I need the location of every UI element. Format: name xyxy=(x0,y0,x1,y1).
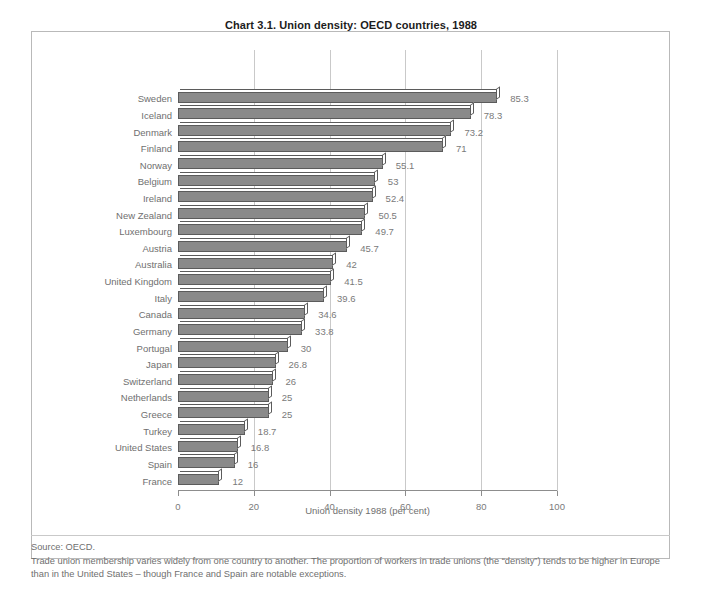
bar-end-cap xyxy=(218,474,223,485)
bar-body xyxy=(178,441,238,452)
category-label: Denmark xyxy=(133,126,172,137)
bar-value-label: 49.7 xyxy=(375,226,394,237)
bar xyxy=(178,141,447,152)
bar-body xyxy=(178,241,347,252)
footer: Source: OECD. Trade union membership var… xyxy=(31,541,670,580)
bar-row: Iceland78.3 xyxy=(178,107,557,124)
bar-end-cap xyxy=(450,125,455,136)
bar-value-label: 78.3 xyxy=(484,109,503,120)
bar-body xyxy=(178,474,219,485)
category-label: Austria xyxy=(142,242,172,253)
bar-value-label: 73.2 xyxy=(464,126,483,137)
bar-body xyxy=(178,108,471,119)
bar-value-label: 39.6 xyxy=(337,292,356,303)
bar-body xyxy=(178,141,443,152)
bar xyxy=(178,191,377,202)
bar-body xyxy=(178,374,273,385)
bar-body xyxy=(178,274,331,285)
bar xyxy=(178,441,242,452)
category-label: Iceland xyxy=(141,109,172,120)
bar-end-cap xyxy=(382,158,387,169)
bar-row: Japan26.8 xyxy=(178,356,557,373)
bar xyxy=(178,274,335,285)
bar-end-cap xyxy=(244,424,249,435)
bar-value-label: 26 xyxy=(286,375,297,386)
category-label: Greece xyxy=(141,409,172,420)
bar xyxy=(178,125,455,136)
bar-body xyxy=(178,175,375,186)
bar-row: Belgium53 xyxy=(178,173,557,190)
bar-end-cap xyxy=(234,457,239,468)
bar-row: Finland71 xyxy=(178,140,557,157)
x-tick-100 xyxy=(557,491,558,496)
bar-row: Canada34.6 xyxy=(178,306,557,323)
bar-end-cap xyxy=(496,92,501,103)
category-label: Turkey xyxy=(143,425,172,436)
bar-row: Turkey18.7 xyxy=(178,422,557,439)
x-tick-20 xyxy=(254,491,255,496)
category-label: Canada xyxy=(139,309,172,320)
bar xyxy=(178,92,501,103)
bar-value-label: 16 xyxy=(248,458,259,469)
bar-end-cap xyxy=(470,108,475,119)
bar-end-cap xyxy=(237,441,242,452)
bar xyxy=(178,341,292,352)
gridline-100 xyxy=(557,50,558,491)
bar xyxy=(178,474,223,485)
bar xyxy=(178,224,366,235)
bar-value-label: 25 xyxy=(282,409,293,420)
bar xyxy=(178,175,379,186)
bar-end-cap xyxy=(332,258,337,269)
x-tick-40 xyxy=(330,491,331,496)
x-axis-title: Union density 1988 (per cent) xyxy=(178,505,557,516)
bar-value-label: 41.5 xyxy=(344,276,363,287)
bar-value-label: 25 xyxy=(282,392,293,403)
bar-end-cap xyxy=(442,141,447,152)
bar-value-label: 26.8 xyxy=(289,359,308,370)
bar-value-label: 12 xyxy=(232,475,243,486)
bar-value-label: 33.8 xyxy=(315,325,334,336)
bar-value-label: 85.3 xyxy=(510,93,529,104)
bar-value-label: 71 xyxy=(456,143,467,154)
bar-end-cap xyxy=(287,341,292,352)
category-label: Ireland xyxy=(143,193,172,204)
bar-end-cap xyxy=(272,374,277,385)
bar-body xyxy=(178,324,302,335)
bar-row: United Kingdom41.5 xyxy=(178,273,557,290)
x-tick-0 xyxy=(178,491,179,496)
bar-value-label: 42 xyxy=(346,259,357,270)
bar-value-label: 53 xyxy=(388,176,399,187)
bar xyxy=(178,424,249,435)
bar xyxy=(178,208,369,219)
category-label: France xyxy=(142,475,172,486)
category-label: Norway xyxy=(140,159,172,170)
bar xyxy=(178,407,273,418)
bar-end-cap xyxy=(301,324,306,335)
footer-note: Trade union membership varies widely fro… xyxy=(31,555,670,580)
bar-value-label: 30 xyxy=(301,342,312,353)
bar-row: France12 xyxy=(178,472,557,489)
bar-row: Germany33.8 xyxy=(178,323,557,340)
bar-row: New Zealand50.5 xyxy=(178,206,557,223)
bar-end-cap xyxy=(268,407,273,418)
bar-value-label: 55.1 xyxy=(396,159,415,170)
bar-row: Italy39.6 xyxy=(178,289,557,306)
x-axis-line xyxy=(178,490,557,491)
bar xyxy=(178,308,309,319)
category-label: United Kingdom xyxy=(104,276,172,287)
bar-body xyxy=(178,125,451,136)
bar-row: Netherlands25 xyxy=(178,389,557,406)
bar-end-cap xyxy=(323,291,328,302)
bar-row: Denmark73.2 xyxy=(178,123,557,140)
bar-end-cap xyxy=(372,191,377,202)
bar-body xyxy=(178,357,276,368)
bar-row: Spain16 xyxy=(178,456,557,473)
bar-value-label: 18.7 xyxy=(258,425,277,436)
bar-value-label: 52.4 xyxy=(386,193,405,204)
bar-end-cap xyxy=(361,224,366,235)
bar-value-label: 45.7 xyxy=(360,242,379,253)
bar-body xyxy=(178,308,305,319)
x-tick-60 xyxy=(405,491,406,496)
bar-body xyxy=(178,391,269,402)
bar-row: Norway55.1 xyxy=(178,156,557,173)
